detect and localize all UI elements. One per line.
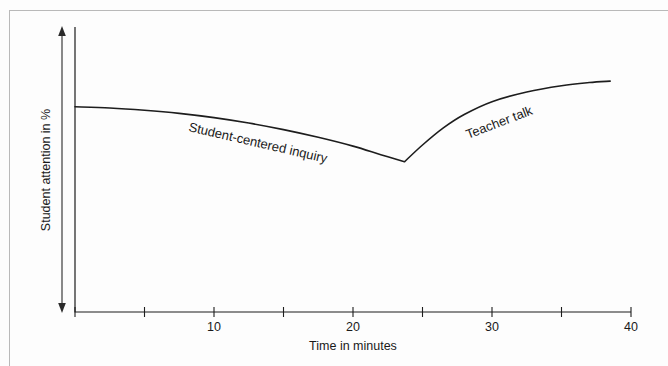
axes — [75, 27, 631, 312]
x-axis-title: Time in minutes — [309, 339, 397, 353]
x-tick-label-10: 10 — [207, 320, 221, 334]
y-axis-attention-arrow — [58, 26, 66, 313]
x-axis-tick-labels: 10 20 30 40 — [207, 320, 638, 334]
x-tick-label-20: 20 — [346, 320, 360, 334]
annotation-student-centered-inquiry: Student-centered inquiry — [187, 119, 329, 166]
chart-figure: Student attention in % 10 20 30 40 Time … — [0, 0, 668, 366]
y-axis-title: Student attention in % — [39, 109, 53, 231]
x-tick-label-30: 30 — [485, 320, 499, 334]
x-tick-label-40: 40 — [624, 320, 638, 334]
attention-curve-plot: Student attention in % 10 20 30 40 Time … — [0, 0, 668, 366]
attention-curve-line — [75, 81, 610, 162]
